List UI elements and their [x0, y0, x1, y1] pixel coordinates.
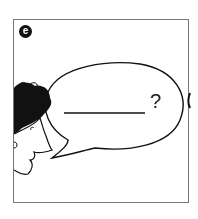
curly-hair [14, 83, 51, 135]
speech-bubble [45, 63, 183, 158]
panel-letter-badge: e [19, 25, 32, 38]
question-mark: ? [150, 90, 161, 113]
neighbor-panel-edge [189, 93, 191, 108]
